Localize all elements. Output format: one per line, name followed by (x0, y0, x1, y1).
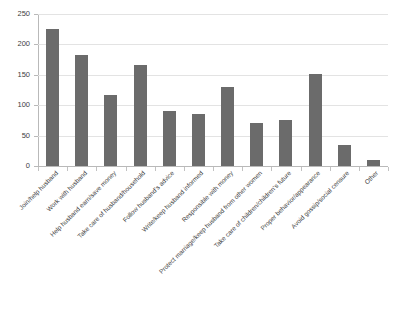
x-axis-tick (242, 167, 243, 171)
bar (309, 74, 322, 166)
x-axis-tick (388, 167, 389, 171)
plot-area (38, 14, 388, 166)
bar (279, 120, 292, 166)
bar (250, 123, 263, 166)
gridline (38, 14, 388, 15)
x-axis-tick (67, 167, 68, 171)
x-axis-category-label: Other (364, 170, 380, 186)
x-axis-tick (38, 167, 39, 171)
bar (46, 29, 59, 166)
y-axis-tick-label: 0 (0, 162, 30, 170)
bar (104, 95, 117, 166)
gridline (38, 136, 388, 137)
y-axis-tick (34, 44, 38, 45)
bar (163, 111, 176, 166)
y-axis-tick-label: 200 (0, 41, 30, 49)
bar (221, 87, 234, 166)
x-axis-tick (359, 167, 360, 171)
y-axis-tick-label: 100 (0, 101, 30, 109)
gridline (38, 105, 388, 106)
bar (338, 145, 351, 166)
x-axis-category-label: Avoid gossip/social censure (291, 170, 351, 230)
y-axis-tick (34, 14, 38, 15)
y-axis-tick-label: 50 (0, 132, 30, 140)
x-axis-category-label: Follow husband's advice (122, 170, 176, 224)
gridline (38, 44, 388, 45)
bar (192, 114, 205, 166)
bar (134, 65, 147, 166)
x-axis-tick (271, 167, 272, 171)
y-axis-tick (34, 136, 38, 137)
x-axis-tick (96, 167, 97, 171)
x-axis-tick (155, 167, 156, 171)
bar (75, 55, 88, 166)
x-axis-category-label: Protect marriage/keep husband from other… (158, 170, 263, 275)
x-axis-tick (330, 167, 331, 171)
y-axis-tick-label: 150 (0, 71, 30, 79)
x-axis-tick (301, 167, 302, 171)
x-axis-tick (213, 167, 214, 171)
x-axis-tick (126, 167, 127, 171)
x-axis-tick (184, 167, 185, 171)
bar (367, 160, 380, 166)
bar-chart: 050100150200250 Join/help husbandWork wi… (0, 0, 398, 323)
y-axis-tick (34, 75, 38, 76)
y-axis-tick-label: 250 (0, 10, 30, 18)
gridline (38, 75, 388, 76)
y-axis-tick (34, 105, 38, 106)
